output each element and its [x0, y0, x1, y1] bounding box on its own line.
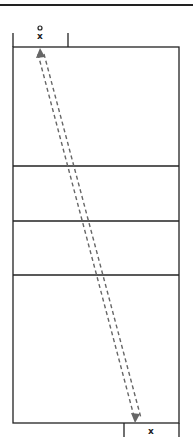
arrow-head-bottom-icon	[131, 413, 140, 423]
court-outline	[13, 47, 179, 423]
top-player-marker: x	[37, 32, 43, 41]
ball-icon	[38, 26, 42, 30]
bottom-player-marker: x	[148, 427, 154, 436]
court-diagram	[0, 0, 193, 437]
pass-path	[38, 54, 141, 420]
arrow-head-top-icon	[36, 48, 45, 58]
